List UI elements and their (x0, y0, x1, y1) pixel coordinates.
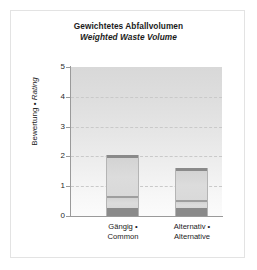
y-tick-label-0: 0 (43, 212, 65, 220)
y-axis-title-separator: • (30, 100, 39, 107)
y-tick-label-5: 5 (43, 63, 65, 71)
x-tick-label-line2: Alternative (144, 232, 240, 242)
y-axis-title-en: Rating (30, 77, 39, 100)
gridline-4 (71, 97, 222, 98)
bar-outline (106, 155, 139, 216)
y-tick-label-3: 3 (43, 123, 65, 131)
x-tick-label-line1: Gängig • (108, 222, 137, 231)
x-axis-line (70, 216, 223, 217)
y-tick-label-2: 2 (43, 152, 65, 160)
bar-gaengig-common[interactable] (106, 155, 139, 216)
y-tick-label-4: 4 (43, 93, 65, 101)
bar-outline (175, 168, 208, 216)
gridline-2 (71, 156, 222, 157)
gridline-3 (71, 127, 222, 128)
x-tick-label-line1: Alternativ • (174, 222, 210, 231)
bar-alternativ-alternative[interactable] (175, 168, 208, 216)
y-axis-title-de: Bewertung (30, 108, 39, 146)
chart-card: Gewichtetes Abfallvolumen Weighted Waste… (10, 10, 245, 258)
plot-area (71, 67, 222, 216)
y-tick-label-1: 1 (43, 182, 65, 190)
x-tick-label-alternativ-alternative: Alternativ • Alternative (144, 222, 240, 242)
y-axis-tick-labels: 5 4 3 2 1 0 (39, 11, 65, 258)
y-axis-title: Bewertung • Rating (30, 42, 39, 182)
